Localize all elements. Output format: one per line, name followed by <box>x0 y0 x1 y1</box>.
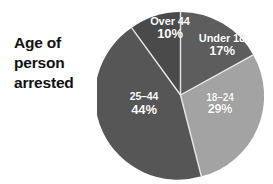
slice-label-25-44: 25–44 44% <box>111 91 177 117</box>
slice-label-under18-value: 17% <box>185 44 259 58</box>
slice-label-18-24: 18–24 29% <box>189 92 251 117</box>
slice-label-under18: Under 18 17% <box>185 32 259 58</box>
chart-title: Age of person arrested <box>14 33 106 92</box>
slice-label-25-44-name: 25–44 <box>111 91 177 103</box>
slice-label-18-24-value: 29% <box>189 103 251 117</box>
pie-chart-graphic: Over 44 10% Under 18 17% 18–24 29% 25–44… <box>97 11 264 184</box>
pie-chart-figure: Age of person arrested Over 44 10% <box>0 0 273 184</box>
slice-label-25-44-value: 44% <box>111 103 177 117</box>
